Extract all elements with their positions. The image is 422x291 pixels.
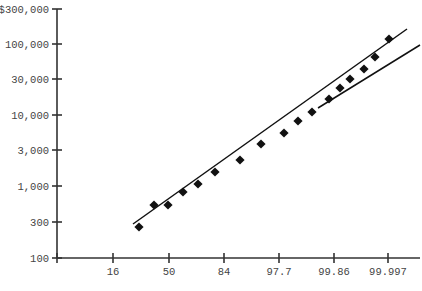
y-axis-labels: $300,000100,00030,00010,0003,0001,000300… (0, 4, 49, 265)
fit-line-steep (133, 29, 407, 224)
y-tick-label: 100 (30, 253, 49, 265)
diamond-marker (256, 139, 265, 148)
y-tick-label: $300,000 (0, 4, 49, 16)
x-tick-label: 99.86 (318, 266, 350, 278)
y-tick-label: 30,000 (11, 74, 49, 86)
diamond-marker (335, 83, 344, 92)
diamond-marker (307, 107, 316, 116)
diamond-marker (384, 34, 393, 43)
diamond-marker (293, 116, 302, 125)
y-tick-label: 3,000 (17, 145, 49, 157)
y-tick-label: 100,000 (5, 39, 49, 51)
x-axis-labels: 16508497.799.8699.997 (107, 266, 407, 278)
diamond-marker (235, 155, 244, 164)
y-tick-label: 1,000 (17, 181, 49, 193)
diamond-marker (178, 187, 187, 196)
diamond-marker (279, 128, 288, 137)
x-tick-label: 99.997 (369, 266, 407, 278)
probability-plot: $300,000100,00030,00010,0003,0001,000300… (0, 0, 422, 291)
diamond-marker (134, 222, 143, 231)
x-tick-label: 16 (107, 266, 120, 278)
x-tick-label: 97.7 (266, 266, 291, 278)
y-tick-label: 10,000 (11, 110, 49, 122)
fit-line-shallow (318, 45, 420, 108)
y-tick-label: 300 (30, 217, 49, 229)
diamond-marker (149, 200, 158, 209)
data-points (134, 34, 393, 231)
diamond-marker (359, 64, 368, 73)
diamond-marker (345, 74, 354, 83)
diamond-marker (324, 94, 333, 103)
axes (52, 9, 420, 263)
x-tick-label: 50 (163, 266, 176, 278)
x-tick-label: 84 (218, 266, 231, 278)
